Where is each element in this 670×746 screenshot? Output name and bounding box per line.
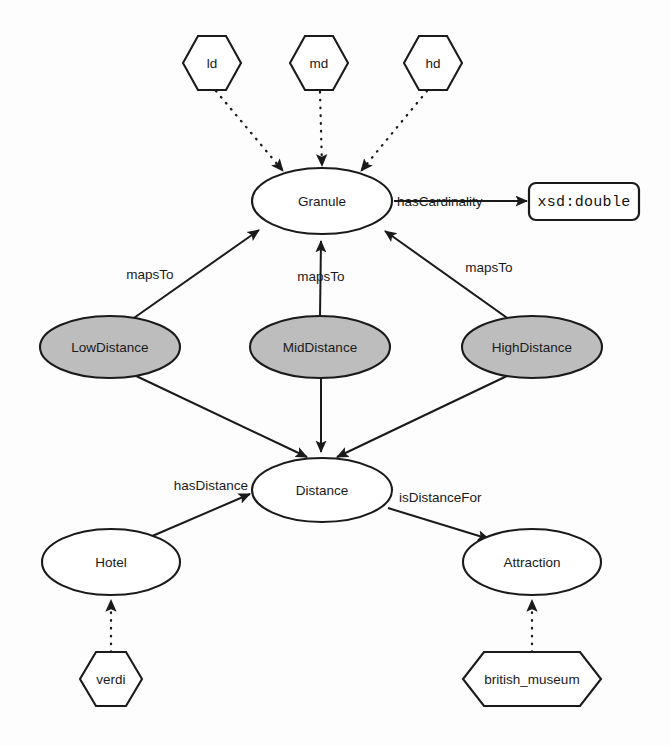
edge-highdistance-to-granule (385, 231, 510, 320)
node-instance-md[interactable]: md (290, 36, 348, 90)
node-class-distance[interactable]: Distance (252, 458, 392, 522)
node-label-attraction: Attraction (503, 555, 560, 570)
node-label-hotel: Hotel (95, 555, 127, 570)
edge-label-hasdistance: hasDistance (174, 478, 248, 493)
edge-label-isdistancefor: isDistanceFor (399, 490, 482, 505)
node-instance-verdi[interactable]: verdi (80, 652, 142, 706)
node-label-ld: ld (207, 56, 218, 71)
node-label-xsd-double: xsd:double (537, 194, 630, 211)
node-instance-british-museum[interactable]: british_museum (463, 652, 601, 706)
edge-md-to-granule (320, 92, 322, 166)
edge-highdistance-to-distance (337, 375, 509, 457)
node-class-middistance[interactable]: MidDistance (250, 316, 390, 378)
node-label-middistance: MidDistance (283, 340, 357, 355)
edge-label-hascardinality: hasCardinality (397, 194, 483, 209)
node-class-highdistance[interactable]: HighDistance (462, 316, 602, 378)
edge-label-mapsto-mid: mapsTo (297, 269, 344, 284)
node-class-hotel[interactable]: Hotel (42, 529, 180, 595)
edge-ld-to-granule (216, 91, 283, 171)
node-class-granule[interactable]: Granule (252, 168, 392, 234)
node-label-verdi: verdi (96, 672, 125, 687)
node-datatype-xsd-double[interactable]: xsd:double (529, 183, 639, 220)
edge-label-mapsto-low: mapsTo (126, 267, 173, 282)
edge-label-mapsto-high: mapsTo (465, 260, 512, 275)
node-label-lowdistance: LowDistance (71, 340, 148, 355)
ontology-graph-canvas: ld md hd Granule xsd:double LowDistance (0, 0, 670, 746)
node-label-distance: Distance (296, 483, 349, 498)
edge-lowdistance-to-distance (132, 374, 307, 457)
ontology-diagram: ld md hd Granule xsd:double LowDistance (0, 0, 670, 746)
edge-distance-to-attraction (388, 508, 489, 539)
node-instance-hd[interactable]: hd (404, 36, 462, 90)
node-label-british-museum: british_museum (484, 672, 579, 687)
node-label-md: md (310, 56, 329, 71)
edge-hotel-to-distance (150, 494, 250, 537)
node-label-hd: hd (425, 56, 440, 71)
node-label-granule: Granule (298, 194, 346, 209)
node-instance-ld[interactable]: ld (183, 36, 241, 90)
edge-hd-to-granule (361, 91, 427, 171)
node-label-highdistance: HighDistance (492, 340, 572, 355)
node-class-attraction[interactable]: Attraction (463, 529, 601, 595)
node-class-lowdistance[interactable]: LowDistance (40, 316, 180, 378)
